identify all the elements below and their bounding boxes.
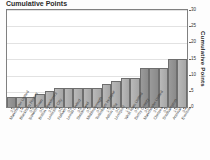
x-axis-tick: 0-1Derby County bbox=[131, 109, 141, 160]
x-axis-tick: 0-3Leeds United bbox=[63, 109, 73, 160]
x-axis-tick: 2-0Chelsea bbox=[150, 109, 160, 160]
chart-root: Cumulative Points 051015202530 Cumulativ… bbox=[0, 0, 210, 160]
y-tick-label: 15 bbox=[191, 57, 196, 61]
y-axis-title: Cumulative Points bbox=[198, 9, 208, 108]
x-axis-tick: 3-4Everton bbox=[178, 109, 188, 160]
x-axis-tick: 1-1West Ham United bbox=[121, 109, 131, 160]
x-axis-tick: 2-2Leicester City bbox=[44, 109, 54, 160]
x-axis-tick: 1-1Aston Villa bbox=[102, 109, 112, 160]
x-axis-tick: 0-3Southampton bbox=[159, 109, 169, 160]
y-tick-label: 20 bbox=[191, 40, 196, 44]
x-axis-tick: 1-4Blackburn Rovers bbox=[16, 109, 26, 160]
x-axis-tick: 2-1Manchester United bbox=[6, 109, 16, 160]
x-axis-tick: 3-3Sunderland bbox=[73, 109, 83, 160]
bar bbox=[121, 78, 130, 107]
y-tick-label: 30 bbox=[191, 8, 196, 12]
x-axis-tick: 0-1Ipswich Town bbox=[25, 109, 35, 160]
bar bbox=[177, 59, 186, 108]
x-axis-tick: 0-0Liverpool bbox=[111, 109, 121, 160]
x-axis-tick: 0-1Middlesbrough bbox=[83, 109, 93, 160]
x-axis-tick: 0-0Bolton Wanderers bbox=[35, 109, 45, 160]
x-axis-tick: 0-1Tottenham Hotspur bbox=[92, 109, 102, 160]
y-tick-label: 10 bbox=[191, 73, 196, 77]
x-axis-tick: 1-0Arsenal bbox=[169, 109, 179, 160]
bar bbox=[64, 88, 73, 107]
x-axis-tick: 3-0Manchester United bbox=[140, 109, 150, 160]
y-tick-label: 5 bbox=[191, 89, 194, 93]
x-axis-labels: 2-1Manchester United1-4Blackburn Rovers0… bbox=[6, 109, 188, 160]
chart-title: Cumulative Points bbox=[0, 0, 210, 8]
bar bbox=[159, 68, 168, 107]
x-axis-tick: 0-0Fulham bbox=[54, 109, 64, 160]
y-tick-label: 25 bbox=[191, 24, 196, 28]
y-axis-title-text: Cumulative Points bbox=[200, 31, 206, 87]
